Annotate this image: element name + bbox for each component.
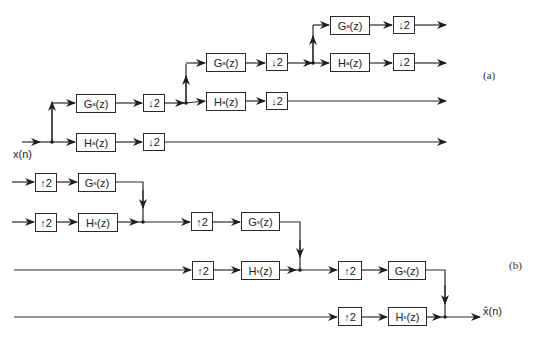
highpass-filter-block: Hs(z) <box>388 307 427 326</box>
lowpass-filter-block: Gs(z) <box>388 261 426 280</box>
filter-argument: (z) <box>97 217 110 229</box>
upsample-block: ↑2 <box>35 173 57 192</box>
downsample-block: ↓2 <box>143 133 165 151</box>
filter-argument: (z) <box>225 96 238 108</box>
highpass-filter-block: Hs(z) <box>241 261 280 280</box>
part-b-label: (b) <box>509 259 522 271</box>
highpass-filter-block: Ha(z) <box>330 53 370 72</box>
upsample-block: ↑2 <box>192 261 214 280</box>
lowpass-filter-block: Gs(z) <box>241 212 280 231</box>
filter-name: H <box>249 265 257 277</box>
filter-name: G <box>338 20 347 32</box>
filter-name: G <box>214 57 223 69</box>
filter-bank-diagram: Ga(z)↓2Ha(z)↓2Ga(z)↓2Ha(z)↓2Ga(z)↓2Ha(z)… <box>0 0 534 340</box>
filter-name: H <box>396 311 404 323</box>
input-label: x(n) <box>13 148 32 160</box>
output-label: x̂(n) <box>483 305 502 317</box>
filter-argument: (z) <box>260 265 273 277</box>
filter-name: G <box>84 98 93 110</box>
filter-name: H <box>338 57 346 69</box>
downsample-block: ↓2 <box>393 53 415 71</box>
upsample-block: ↑2 <box>35 213 57 232</box>
filter-name: H <box>86 217 94 229</box>
downsample-block: ↓2 <box>266 92 288 110</box>
filter-argument: (z) <box>260 216 273 228</box>
filter-name: G <box>85 177 94 189</box>
filter-argument: (z) <box>95 137 108 149</box>
filter-argument: (z) <box>406 265 419 277</box>
downsample-block: ↓2 <box>143 94 165 112</box>
downsample-block: ↓2 <box>393 16 415 34</box>
filter-name: H <box>84 137 92 149</box>
signal-wires <box>0 0 534 340</box>
filter-argument: (z) <box>407 311 420 323</box>
upsample-block: ↑2 <box>191 212 213 231</box>
part-a-label: (a) <box>483 69 495 81</box>
filter-argument: (z) <box>96 177 109 189</box>
filter-argument: (z) <box>226 57 239 69</box>
filter-name: G <box>248 216 257 228</box>
lowpass-filter-block: Ga(z) <box>206 53 246 72</box>
filter-name: H <box>214 96 222 108</box>
upsample-block: ↑2 <box>338 307 362 326</box>
filter-argument: (z) <box>349 57 362 69</box>
filter-argument: (z) <box>350 20 363 32</box>
highpass-filter-block: Ha(z) <box>206 92 246 111</box>
highpass-filter-block: Hs(z) <box>78 213 118 232</box>
downsample-block: ↓2 <box>266 53 288 71</box>
lowpass-filter-block: Ga(z) <box>330 16 370 35</box>
lowpass-filter-block: Gs(z) <box>78 173 116 192</box>
highpass-filter-block: Ha(z) <box>76 133 116 152</box>
upsample-block: ↑2 <box>338 261 362 280</box>
filter-name: G <box>395 265 404 277</box>
lowpass-filter-block: Ga(z) <box>76 94 116 113</box>
filter-argument: (z) <box>96 98 109 110</box>
